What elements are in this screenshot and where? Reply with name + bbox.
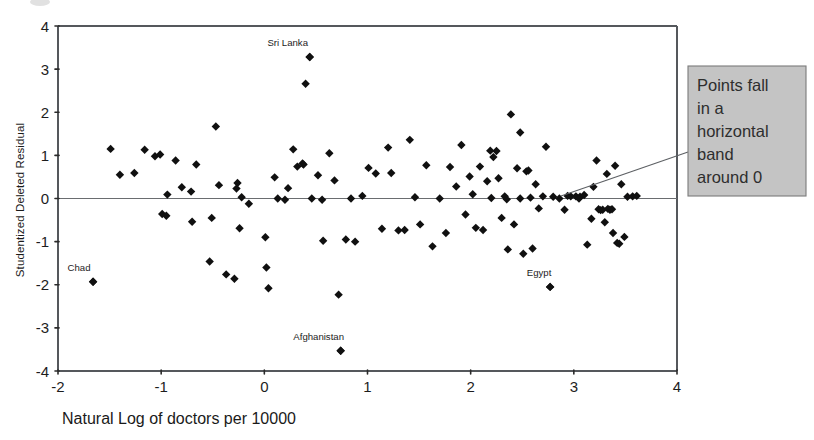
data-point xyxy=(542,143,550,151)
y-tick-label: -4 xyxy=(36,363,49,380)
data-point xyxy=(465,172,473,180)
data-point xyxy=(400,226,408,234)
callout-text-line: Points fall xyxy=(697,76,769,94)
data-point xyxy=(289,145,297,153)
data-points-layer xyxy=(89,53,641,355)
data-point xyxy=(264,284,272,292)
data-point xyxy=(560,206,568,214)
data-point xyxy=(274,194,282,202)
data-point xyxy=(461,210,469,218)
data-point xyxy=(130,169,138,177)
data-point xyxy=(163,190,171,198)
data-point xyxy=(378,224,386,232)
data-point xyxy=(428,242,436,250)
data-point xyxy=(387,169,395,177)
x-tick-label: 0 xyxy=(260,378,268,395)
y-axis-tick-labels: -4-3-2-101234 xyxy=(36,18,49,380)
data-point xyxy=(452,182,460,190)
data-point xyxy=(192,160,200,168)
data-point-label: Afghanistan xyxy=(293,331,344,342)
y-tick-label: -2 xyxy=(36,276,49,293)
data-point xyxy=(347,194,355,202)
data-point xyxy=(592,156,600,164)
scan-artifact xyxy=(30,0,50,6)
x-tick-label: 4 xyxy=(673,378,681,395)
callout-leader-line xyxy=(561,152,688,196)
data-point xyxy=(237,193,245,201)
data-point xyxy=(497,214,505,222)
data-point xyxy=(106,145,114,153)
callout-text-line: in a xyxy=(697,99,724,117)
data-point xyxy=(308,194,316,202)
data-point xyxy=(281,196,289,204)
data-point xyxy=(479,226,487,234)
data-point-labeled xyxy=(546,283,554,291)
data-point xyxy=(325,149,333,157)
data-point xyxy=(330,176,338,184)
x-axis-title: Natural Log of doctors per 10000 xyxy=(62,410,296,427)
y-axis-title: Studentized Deleted Residual xyxy=(14,123,26,277)
data-point xyxy=(587,215,595,223)
data-point xyxy=(342,235,350,243)
x-tick-label: -2 xyxy=(51,378,64,395)
data-point xyxy=(531,180,539,188)
data-point xyxy=(334,290,342,298)
data-point-labeled xyxy=(89,278,97,286)
data-point xyxy=(549,193,557,201)
data-point xyxy=(504,245,512,253)
data-point xyxy=(406,136,414,144)
data-point xyxy=(601,218,609,226)
x-tick-label: 3 xyxy=(570,378,578,395)
data-point xyxy=(270,173,278,181)
data-point xyxy=(212,122,220,130)
data-point xyxy=(422,161,430,169)
data-point xyxy=(539,192,547,200)
data-point xyxy=(476,162,484,170)
data-point xyxy=(364,164,372,172)
data-point xyxy=(116,171,124,179)
data-point xyxy=(494,174,502,182)
data-point xyxy=(583,240,591,248)
data-point xyxy=(487,194,495,202)
data-point xyxy=(603,170,611,178)
x-tick-label: 2 xyxy=(466,378,474,395)
data-point xyxy=(411,193,419,201)
data-point xyxy=(472,224,480,232)
data-point xyxy=(516,194,524,202)
data-point xyxy=(235,224,243,232)
data-point xyxy=(416,220,424,228)
callout-text-lines: Points fallin ahorizontalbandaround 0 xyxy=(697,76,769,186)
data-point xyxy=(314,171,322,179)
data-point xyxy=(526,193,534,201)
data-point xyxy=(617,180,625,188)
y-tick-label: 0 xyxy=(41,190,49,207)
y-tick-label: 2 xyxy=(41,104,49,121)
data-point xyxy=(187,187,195,195)
data-point xyxy=(516,128,524,136)
data-point xyxy=(245,199,253,207)
data-point xyxy=(483,177,491,185)
data-point xyxy=(446,163,454,171)
data-point xyxy=(519,250,527,258)
data-point xyxy=(301,80,309,88)
data-point xyxy=(609,229,617,237)
data-point xyxy=(171,156,179,164)
data-point xyxy=(205,257,213,265)
data-point-label: Egypt xyxy=(527,267,552,278)
data-point xyxy=(178,183,186,191)
data-point-label: Sri Lanka xyxy=(267,37,308,48)
data-point xyxy=(528,244,536,252)
data-point xyxy=(261,233,269,241)
data-point xyxy=(507,110,515,118)
x-axis-tick-labels: -2-101234 xyxy=(51,378,681,395)
y-tick-label: 3 xyxy=(41,61,49,78)
y-tick-label: -3 xyxy=(36,319,49,336)
data-point xyxy=(611,162,619,170)
y-tick-label: 4 xyxy=(41,18,49,35)
data-point xyxy=(208,214,216,222)
data-point xyxy=(513,164,521,172)
data-point xyxy=(319,237,327,245)
data-point xyxy=(262,263,270,271)
y-tick-label: 1 xyxy=(41,147,49,164)
callout-text-line: band xyxy=(697,145,734,163)
